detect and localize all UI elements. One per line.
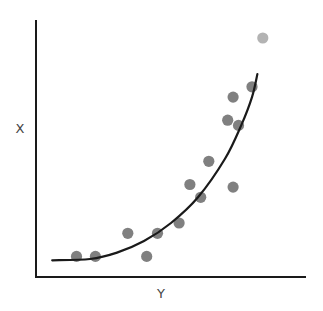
data-point xyxy=(184,179,195,190)
y-axis-label: X xyxy=(16,121,25,136)
x-axis-label: Y xyxy=(156,286,165,301)
scatter-chart: X Y xyxy=(0,0,323,311)
data-point xyxy=(141,251,152,262)
data-point xyxy=(228,182,239,193)
outlier-data-point xyxy=(257,32,268,43)
data-point xyxy=(122,228,133,239)
data-points xyxy=(71,32,269,262)
data-point xyxy=(228,92,239,103)
data-point xyxy=(222,115,233,126)
chart-canvas: X Y xyxy=(0,0,323,311)
data-point xyxy=(203,156,214,167)
